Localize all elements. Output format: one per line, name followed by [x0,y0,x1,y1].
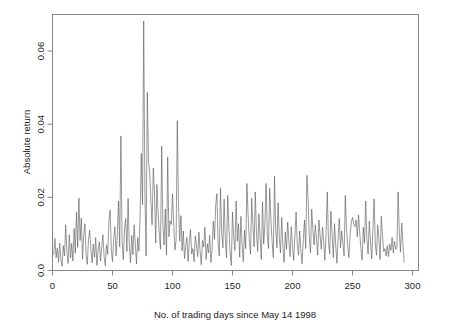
x-tick-label: 300 [405,280,421,291]
x-axis-ticks [53,271,413,276]
x-tick-label: 250 [345,280,361,291]
x-tick-label: 100 [165,280,181,291]
x-tick-label: 200 [285,280,301,291]
x-axis-tick-labels: 050100150200250300 [50,280,421,291]
x-tick-label: 150 [225,280,241,291]
y-tick-label: 0.06 [35,42,46,61]
y-tick-label: 0.0 [35,264,46,277]
chart-figure: 0.00.020.040.06 050100150200250300 No. o… [0,0,451,332]
y-tick-label: 0.04 [35,115,46,134]
data-series-line [54,21,404,266]
y-axis-title: Absolute return [21,110,32,174]
y-axis-tick-labels: 0.00.020.040.06 [35,42,46,277]
x-tick-label: 0 [50,280,55,291]
data-series-group [54,21,404,266]
y-axis-ticks [48,51,53,270]
x-axis-title: No. of trading days since May 14 1998 [154,309,316,320]
x-tick-label: 50 [107,280,118,291]
chart-canvas: 0.00.020.040.06 050100150200250300 No. o… [0,0,451,332]
y-tick-label: 0.02 [35,188,46,207]
